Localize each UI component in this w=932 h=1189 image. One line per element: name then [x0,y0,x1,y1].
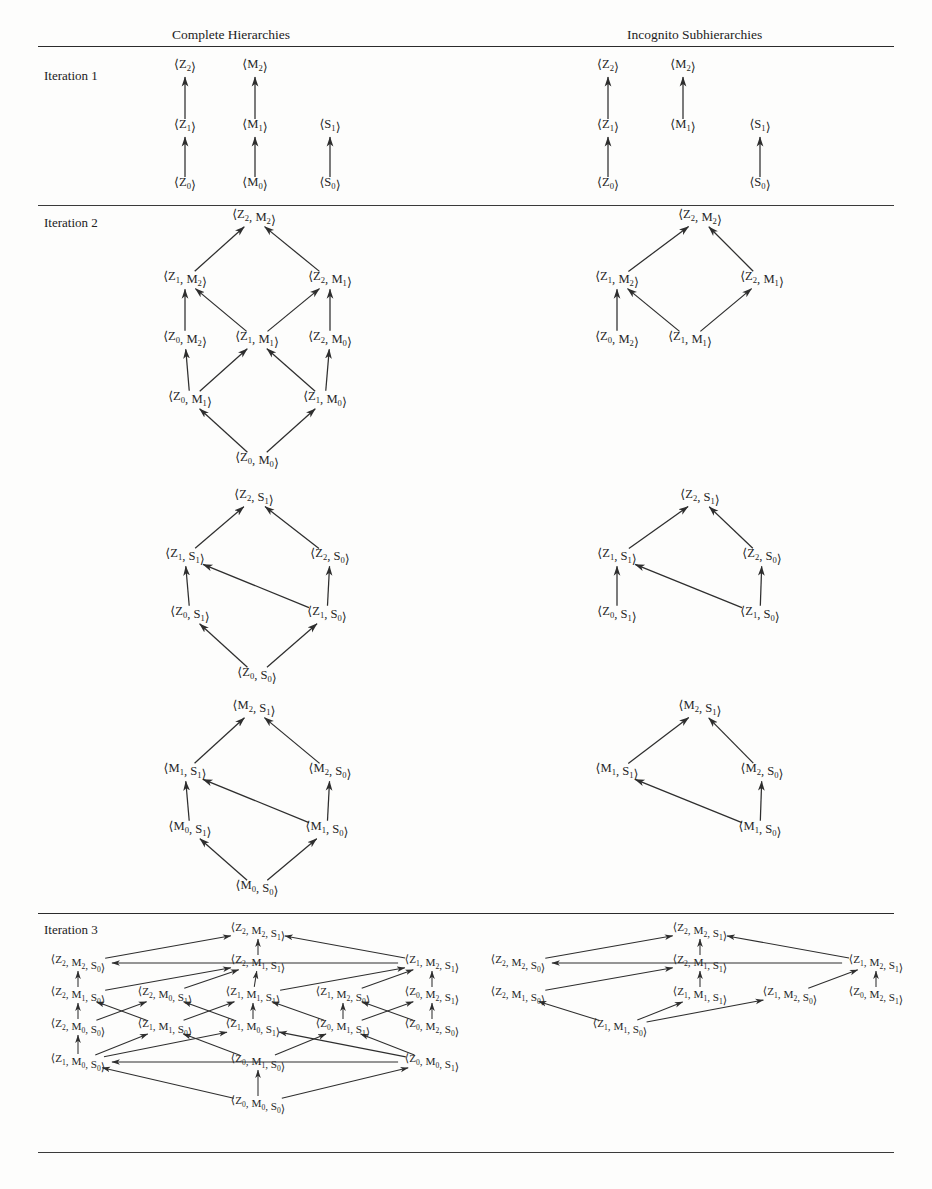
hierarchy-node: ⟨Z0⟩ [174,175,196,192]
hierarchy-edge-arrow [195,718,245,764]
hierarchy-edge-arrow [628,718,689,764]
hierarchy-node: ⟨M2⟩ [242,57,267,74]
hierarchy-node: ⟨Z0, M2⟩ [163,329,207,349]
hierarchy-node: ⟨M1, S1⟩ [164,761,207,781]
hierarchy-node: ⟨M1⟩ [670,117,695,134]
hierarchy-node: ⟨Z1, S1⟩ [165,546,204,566]
iteration2-blockZM-incognito: ⟨Z2, M2⟩⟨Z1, M2⟩⟨Z2, M1⟩⟨Z0, M2⟩⟨Z1, M1⟩ [595,207,784,349]
hierarchy-node: ⟨Z0, M2⟩ [595,329,639,349]
iteration2-blockZS-incognito: ⟨Z2, S1⟩⟨Z1, S1⟩⟨Z2, S0⟩⟨Z0, S1⟩⟨Z1, S0⟩ [597,487,781,624]
hierarchy-node: ⟨M2, S0⟩ [309,761,352,781]
hierarchy-node: ⟨Z2, M2, S0⟩ [51,953,105,974]
hierarchy-node: ⟨M0, S1⟩ [169,819,212,839]
hierarchy-edge-arrow [282,1068,408,1099]
hierarchy-edge-arrow [267,839,316,881]
hierarchy-node: ⟨Z0⟩ [597,175,619,192]
hierarchy-node: ⟨Z2, M2⟩ [678,207,722,227]
hierarchy-node: ⟨M1, S1⟩ [596,761,639,781]
hierarchy-diagram-canvas: ⟨Z2⟩⟨M2⟩⟨Z1⟩⟨M1⟩⟨S1⟩⟨Z0⟩⟨M0⟩⟨S0⟩⟨Z2⟩⟨M2⟩… [0,0,932,1189]
hierarchy-edge-arrow [760,566,761,606]
hierarchy-edge-arrow [200,349,248,392]
hierarchy-edge-arrow [105,936,231,958]
hierarchy-edge-arrow [203,564,309,607]
hierarchy-node: ⟨Z1, M1⟩ [235,329,279,349]
hierarchy-edge-arrow [628,227,688,272]
iteration2-blockMS-incognito: ⟨M2, S1⟩⟨M1, S1⟩⟨M2, S0⟩⟨M1, S0⟩ [596,698,784,839]
hierarchy-node: ⟨Z2, S1⟩ [234,487,273,507]
hierarchy-node: ⟨S0⟩ [319,175,340,192]
hierarchy-node: ⟨Z0, M0, S1⟩ [405,1052,459,1073]
hierarchy-edge-arrow [195,289,246,332]
hierarchy-node: ⟨M2, S1⟩ [679,698,722,718]
hierarchy-edge-arrow [200,839,247,881]
hierarchy-edge-arrow [637,1002,682,1020]
iteration1-complete: ⟨Z2⟩⟨M2⟩⟨Z1⟩⟨M1⟩⟨S1⟩⟨Z0⟩⟨M0⟩⟨S0⟩ [174,57,341,192]
figure-page: Complete Hierarchies Incognito Subhierar… [0,0,932,1189]
hierarchy-edge-arrow [635,564,742,607]
hierarchy-node: ⟨Z2, M1⟩ [740,269,784,289]
iteration2-blockZM-complete: ⟨Z2, M2⟩⟨Z1, M2⟩⟨Z2, M1⟩⟨Z0, M2⟩⟨Z1, M1⟩… [163,207,352,470]
hierarchy-node: ⟨Z2, M2, S1⟩ [231,921,285,942]
hierarchy-node: ⟨Z1, M0, S1⟩ [226,1017,280,1038]
hierarchy-node: ⟨Z0, M0, S0⟩ [231,1094,285,1115]
iteration2-blockZS-complete: ⟨Z2, S1⟩⟨Z1, S1⟩⟨Z2, S0⟩⟨Z0, S1⟩⟨Z1, S0⟩… [165,487,349,685]
hierarchy-edge-arrow [727,936,849,958]
iteration1-incognito: ⟨Z2⟩⟨M2⟩⟨Z1⟩⟨M1⟩⟨S1⟩⟨Z0⟩⟨S0⟩ [597,57,771,192]
hierarchy-node: ⟨Z1, M0, S0⟩ [51,1052,105,1073]
hierarchy-node: ⟨Z0, S0⟩ [237,665,276,685]
hierarchy-edge-arrow [647,1000,764,1022]
hierarchy-node: ⟨M0⟩ [242,175,267,192]
hierarchy-edge-arrow [760,781,761,821]
hierarchy-node: ⟨Z2, M1, S0⟩ [51,985,105,1006]
hierarchy-node: ⟨Z2, S0⟩ [742,546,781,566]
hierarchy-node: ⟨Z0, M2, S1⟩ [849,985,903,1006]
hierarchy-node: ⟨Z2, M2⟩ [232,207,276,227]
hierarchy-edge-arrow [195,227,245,272]
hierarchy-node: ⟨Z2⟩ [174,57,196,74]
hierarchy-edge-arrow [700,289,751,332]
hierarchy-node: ⟨Z2, M1⟩ [308,269,352,289]
hierarchy-edge-arrow [545,968,672,990]
hierarchy-node: ⟨M1⟩ [242,117,267,134]
hierarchy-node: ⟨Z2, M2, S1⟩ [673,921,727,942]
hierarchy-node: ⟨Z0, M2, S1⟩ [405,985,459,1006]
hierarchy-edge-arrow [186,566,189,606]
hierarchy-node: ⟨Z2, M1, S0⟩ [491,985,545,1006]
hierarchy-edge-arrow [264,718,319,764]
hierarchy-edge-arrow [326,349,329,391]
hierarchy-node: ⟨Z0, M1⟩ [168,389,212,409]
hierarchy-node: ⟨Z2, S0⟩ [310,546,349,566]
hierarchy-edge-arrow [267,624,317,668]
hierarchy-edge-arrow [203,779,309,822]
hierarchy-node: ⟨Z1, M2, S1⟩ [405,953,459,974]
hierarchy-node: ⟨Z1⟩ [597,117,619,134]
diagram-edges: ⟨Z2⟩⟨M2⟩⟨Z1⟩⟨M1⟩⟨S1⟩⟨Z0⟩⟨M0⟩⟨S0⟩⟨Z2⟩⟨M2⟩… [51,57,903,1115]
hierarchy-node: ⟨Z1, M1⟩ [668,329,712,349]
hierarchy-node: ⟨Z1, M0⟩ [303,389,347,409]
hierarchy-node: ⟨Z1, M2⟩ [595,269,639,289]
hierarchy-edge-arrow [267,409,316,453]
hierarchy-edge-arrow [327,781,329,821]
hierarchy-edge-arrow [186,781,189,821]
hierarchy-node: ⟨S1⟩ [319,117,340,134]
hierarchy-edge-arrow [545,936,672,958]
hierarchy-edge-arrow [265,507,319,549]
hierarchy-node: ⟨Z0, M2, S0⟩ [405,1017,459,1038]
hierarchy-edge-arrow [268,289,320,332]
hierarchy-node: ⟨M0, S0⟩ [236,878,279,898]
hierarchy-node: ⟨M1, S0⟩ [739,819,782,839]
hierarchy-node: ⟨M1, S0⟩ [306,819,349,839]
hierarchy-node: ⟨Z1, M1, S0⟩ [593,1017,647,1038]
hierarchy-edge-arrow [254,971,256,987]
iteration3-incognito: ⟨Z2, M2, S1⟩⟨Z2, M2, S0⟩⟨Z2, M1, S1⟩⟨Z1,… [491,921,903,1038]
hierarchy-node: ⟨Z1, M2, S1⟩ [849,953,903,974]
hierarchy-edge-arrow [200,409,248,453]
hierarchy-node: ⟨Z2, M2, S0⟩ [491,953,545,974]
hierarchy-node: ⟨M2⟩ [670,57,695,74]
hierarchy-node: ⟨Z2⟩ [597,57,619,74]
hierarchy-node: ⟨Z1, M1, S1⟩ [226,985,280,1006]
iteration2-blockMS-complete: ⟨M2, S1⟩⟨M1, S1⟩⟨M2, S0⟩⟨M0, S1⟩⟨M1, S0⟩… [164,698,352,898]
hierarchy-node: ⟨Z1, S0⟩ [307,604,346,624]
hierarchy-edge-arrow [265,227,320,272]
hierarchy-edge-arrow [538,1001,599,1020]
